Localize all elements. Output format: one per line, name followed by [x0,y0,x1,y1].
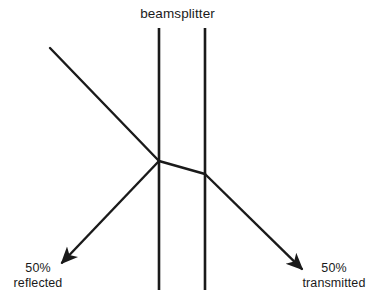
transmitted-ray [205,174,302,269]
incident-ray [50,48,159,161]
transmitted-output-label: 50% transmitted [295,261,373,291]
beamsplitter-diagram: beamsplitter 50% reflected 50% transmitt… [0,0,373,308]
internal-ray [159,161,205,174]
transmitted-word-text: transmitted [295,276,373,291]
reflected-ray [62,161,159,263]
beamsplitter-label-text: beamsplitter [140,6,215,21]
reflected-word-text: reflected [0,276,76,291]
transmitted-percent-text: 50% [295,261,373,276]
reflected-percent-text: 50% [0,261,76,276]
beamsplitter-label: beamsplitter [0,6,373,22]
reflected-output-label: 50% reflected [0,261,76,291]
